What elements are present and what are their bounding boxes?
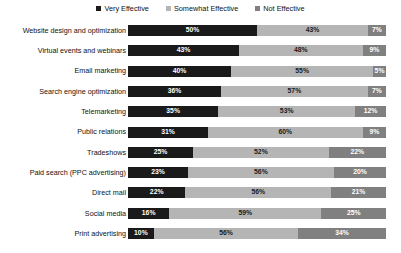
bar-segment-value: 25% xyxy=(347,210,361,217)
bar-segment-value: 56% xyxy=(251,189,265,196)
bar-segment-very-effective[interactable]: 40% xyxy=(128,66,231,77)
bar-segment-value: 9% xyxy=(369,129,379,136)
stacked-bar: 23%56%20% xyxy=(128,167,386,178)
legend-item-label: Somewhat Effective xyxy=(174,5,238,12)
stacked-bar: 43%48%9% xyxy=(128,45,386,56)
bar-segment-very-effective[interactable]: 50% xyxy=(128,25,257,36)
bar-segment-value: 20% xyxy=(353,169,367,176)
bar-segment-not-effective[interactable]: 22% xyxy=(329,147,386,158)
bar-segment-very-effective[interactable]: 36% xyxy=(128,86,221,97)
legend-item-label: Very Effective xyxy=(104,5,148,12)
bar-segment-value: 57% xyxy=(288,88,302,95)
bar-segment-very-effective[interactable]: 25% xyxy=(128,147,193,158)
bar-segment-somewhat-effective[interactable]: 53% xyxy=(218,106,355,117)
bar-segment-not-effective[interactable]: 7% xyxy=(368,86,386,97)
category-label: Print advertising xyxy=(0,230,128,237)
bar-segment-value: 56% xyxy=(219,230,233,237)
legend-item-label: Not Effective xyxy=(263,5,304,12)
bar-segment-very-effective[interactable]: 10% xyxy=(128,228,154,239)
legend-item-somewhat-effective[interactable]: Somewhat Effective xyxy=(166,5,238,12)
bar-segment-very-effective[interactable]: 43% xyxy=(128,45,239,56)
bar-segment-not-effective[interactable]: 34% xyxy=(298,228,386,239)
chart-row: Search engine optimization36%57%7% xyxy=(0,86,401,97)
bar-segment-somewhat-effective[interactable]: 55% xyxy=(231,66,373,77)
stacked-bar: 31%60%9% xyxy=(128,127,386,138)
legend-item-very-effective[interactable]: Very Effective xyxy=(96,5,148,12)
stacked-bar: 50%43%7% xyxy=(128,25,386,36)
chart-row: Print advertising10%56%34% xyxy=(0,228,401,239)
bar-segment-value: 43% xyxy=(306,27,320,34)
bar-segment-very-effective[interactable]: 16% xyxy=(128,208,169,219)
category-label: Public relations xyxy=(0,128,128,135)
bar-segment-not-effective[interactable]: 5% xyxy=(373,66,386,77)
stacked-bar: 22%56%21% xyxy=(128,187,386,198)
bar-segment-value: 48% xyxy=(294,47,308,54)
stacked-bar-chart: Very EffectiveSomewhat EffectiveNot Effe… xyxy=(0,0,401,253)
bar-segment-value: 12% xyxy=(364,108,378,115)
bar-segment-value: 7% xyxy=(372,27,382,34)
legend-swatch-icon xyxy=(255,6,260,11)
bar-segment-somewhat-effective[interactable]: 56% xyxy=(185,187,331,198)
bar-segment-value: 9% xyxy=(369,47,379,54)
bar-segment-somewhat-effective[interactable]: 57% xyxy=(221,86,368,97)
bar-segment-value: 43% xyxy=(177,47,191,54)
legend-swatch-icon xyxy=(166,6,171,11)
bar-segment-value: 36% xyxy=(168,88,182,95)
category-label: Paid search (PPC advertising) xyxy=(0,169,128,176)
bar-segment-not-effective[interactable]: 20% xyxy=(334,167,386,178)
chart-row: Public relations31%60%9% xyxy=(0,127,401,138)
bar-segment-value: 55% xyxy=(295,68,309,75)
chart-row: Website design and optimization50%43%7% xyxy=(0,25,401,36)
bar-segment-value: 31% xyxy=(161,129,175,136)
bar-segment-value: 60% xyxy=(279,129,293,136)
bar-segment-value: 59% xyxy=(239,210,253,217)
bar-segment-not-effective[interactable]: 7% xyxy=(368,25,386,36)
bar-segment-very-effective[interactable]: 23% xyxy=(128,167,188,178)
bar-segment-somewhat-effective[interactable]: 48% xyxy=(239,45,363,56)
bar-segment-value: 16% xyxy=(142,210,156,217)
chart-row: Direct mail22%56%21% xyxy=(0,187,401,198)
bar-segment-not-effective[interactable]: 21% xyxy=(331,187,386,198)
chart-row: Paid search (PPC advertising)23%56%20% xyxy=(0,167,401,178)
bar-segment-somewhat-effective[interactable]: 56% xyxy=(154,228,298,239)
bar-segment-somewhat-effective[interactable]: 52% xyxy=(193,147,329,158)
stacked-bar: 10%56%34% xyxy=(128,228,386,239)
bar-segment-not-effective[interactable]: 9% xyxy=(363,45,386,56)
category-label: Social media xyxy=(0,210,128,217)
bar-segment-value: 7% xyxy=(372,88,382,95)
chart-row: Virtual events and webinars43%48%9% xyxy=(0,45,401,56)
bar-segment-somewhat-effective[interactable]: 43% xyxy=(257,25,368,36)
bar-segment-value: 50% xyxy=(186,27,200,34)
bar-segment-not-effective[interactable]: 9% xyxy=(363,127,386,138)
category-label: Direct mail xyxy=(0,189,128,196)
bar-segment-value: 34% xyxy=(335,230,349,237)
bar-segment-not-effective[interactable]: 12% xyxy=(355,106,386,117)
chart-row: Tradeshows25%52%22% xyxy=(0,147,401,158)
bar-segment-value: 56% xyxy=(254,169,268,176)
stacked-bar: 36%57%7% xyxy=(128,86,386,97)
bar-segment-not-effective[interactable]: 25% xyxy=(321,208,386,219)
plot-area: Website design and optimization50%43%7%V… xyxy=(0,20,401,253)
legend-swatch-icon xyxy=(96,6,101,11)
bar-segment-value: 22% xyxy=(150,189,164,196)
bar-segment-value: 5% xyxy=(375,68,385,75)
stacked-bar: 16%59%25% xyxy=(128,208,386,219)
bar-segment-somewhat-effective[interactable]: 60% xyxy=(208,127,363,138)
category-label: Search engine optimization xyxy=(0,88,128,95)
bar-segment-very-effective[interactable]: 31% xyxy=(128,127,208,138)
bar-segment-value: 22% xyxy=(351,149,365,156)
bar-segment-value: 53% xyxy=(280,108,294,115)
bar-segment-very-effective[interactable]: 22% xyxy=(128,187,185,198)
bar-segment-value: 25% xyxy=(154,149,168,156)
category-label: Tradeshows xyxy=(0,149,128,156)
bar-segment-somewhat-effective[interactable]: 59% xyxy=(169,208,321,219)
bar-segment-value: 21% xyxy=(352,189,366,196)
bar-segment-very-effective[interactable]: 35% xyxy=(128,106,218,117)
bar-segment-somewhat-effective[interactable]: 56% xyxy=(188,167,334,178)
legend-item-not-effective[interactable]: Not Effective xyxy=(255,5,304,12)
bar-segment-value: 52% xyxy=(254,149,268,156)
bar-segment-value: 40% xyxy=(173,68,187,75)
chart-row: Telemarketing35%53%12% xyxy=(0,106,401,117)
category-label: Telemarketing xyxy=(0,108,128,115)
bar-segment-value: 35% xyxy=(166,108,180,115)
